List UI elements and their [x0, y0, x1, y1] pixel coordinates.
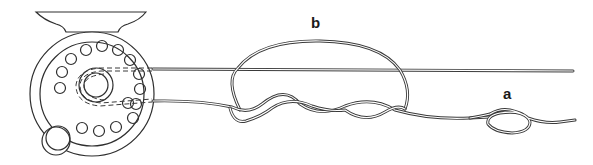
reel-line-diagram: b a	[0, 0, 593, 165]
fly-reel	[30, 12, 154, 156]
label-a: a	[503, 85, 512, 102]
reel-foot	[36, 12, 146, 32]
knot-b	[153, 41, 490, 122]
label-b: b	[311, 14, 320, 31]
upper-line	[153, 69, 573, 71]
knot-a	[470, 110, 575, 134]
